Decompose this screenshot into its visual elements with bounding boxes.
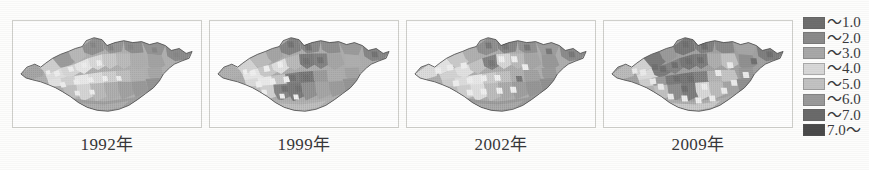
legend-item-2: ～2.0	[803, 30, 869, 45]
figure-root: 1992年 1999年 2002年 2009年 ～1.0 ～2.0 ～3.0 ～…	[0, 0, 869, 170]
legend-swatch-6-icon	[803, 94, 825, 106]
map-panel-2002[interactable]	[406, 20, 596, 128]
legend: ～1.0 ～2.0 ～3.0 ～4.0 ～5.0 ～6.0 ～7.0 7.0～	[803, 15, 869, 139]
legend-item-6: ～6.0	[803, 92, 869, 107]
legend-item-3: ～3.0	[803, 46, 869, 61]
legend-item-1: ～1.0	[803, 15, 869, 30]
legend-label-7: ～7.0	[827, 108, 861, 123]
year-caption-2002: 2002年	[406, 132, 596, 162]
legend-swatch-1-icon	[803, 17, 825, 29]
mongolia-choropleth-2009	[604, 21, 792, 127]
legend-swatch-5-icon	[803, 78, 825, 90]
mongolia-choropleth-2002	[407, 21, 595, 127]
map-panel-1992[interactable]	[12, 20, 202, 128]
legend-label-4: ～4.0	[827, 61, 861, 76]
legend-label-6: ～6.0	[827, 92, 861, 107]
legend-swatch-3-icon	[803, 47, 825, 59]
legend-label-5: ～5.0	[827, 77, 861, 92]
legend-item-4: ～4.0	[803, 61, 869, 76]
legend-label-3: ～3.0	[827, 46, 861, 61]
map-panel-row	[12, 20, 796, 130]
year-caption-1999: 1999年	[209, 132, 399, 162]
legend-swatch-4-icon	[803, 63, 825, 75]
legend-label-2: ～2.0	[827, 31, 861, 46]
legend-item-7: ～7.0	[803, 107, 869, 122]
map-panel-1999[interactable]	[209, 20, 399, 128]
legend-swatch-8-icon	[803, 124, 825, 136]
legend-label-8: 7.0～	[827, 123, 861, 138]
year-caption-1992: 1992年	[12, 132, 202, 162]
legend-item-5: ～5.0	[803, 77, 869, 92]
map-panel-2009[interactable]	[603, 20, 793, 128]
year-caption-2009: 2009年	[603, 132, 793, 162]
legend-label-1: ～1.0	[827, 15, 861, 30]
legend-swatch-7-icon	[803, 109, 825, 121]
mongolia-choropleth-1992	[13, 21, 201, 127]
legend-item-8: 7.0～	[803, 123, 869, 138]
legend-swatch-2-icon	[803, 32, 825, 44]
mongolia-choropleth-1999	[210, 21, 398, 127]
year-caption-row: 1992年 1999年 2002年 2009年	[12, 132, 796, 162]
